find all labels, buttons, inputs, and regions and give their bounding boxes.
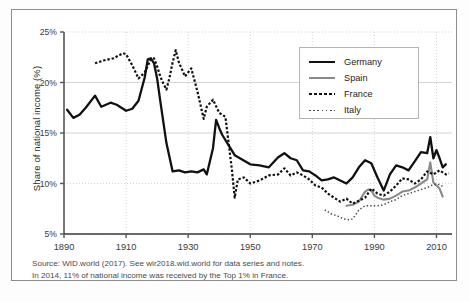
legend-label-italy: Italy	[344, 105, 361, 116]
figure-root: 5%10%15%20%25%18901910193019501970199020…	[0, 0, 469, 302]
chart-panel: 5%10%15%20%25%18901910193019501970199020…	[11, 9, 457, 281]
legend-item-germany[interactable]: Germany	[300, 54, 418, 70]
legend-item-france[interactable]: France	[300, 86, 418, 102]
legend-label-germany: Germany	[344, 57, 382, 68]
y-tick-label-10: 10%	[40, 179, 58, 189]
y-axis-label: Share of national income (%)	[31, 29, 42, 229]
source-line-1: Source: WID.world (2017). See wir2018.wi…	[32, 258, 432, 270]
legend-line-spain-icon	[309, 73, 335, 84]
x-tick-label-1950: 1950	[240, 242, 261, 252]
legend-label-spain: Spain	[344, 73, 368, 84]
legend-line-germany-icon	[309, 57, 335, 68]
source-line-2: In 2014, 11% of national income was rece…	[32, 270, 432, 282]
x-tick-label-1910: 1910	[116, 242, 137, 252]
x-tick-label-1890: 1890	[54, 242, 75, 252]
source-note: Source: WID.world (2017). See wir2018.wi…	[32, 258, 432, 281]
y-tick-label-5: 5%	[45, 229, 58, 239]
x-tick-label-1970: 1970	[302, 242, 323, 252]
y-tick-label-15: 15%	[40, 128, 58, 138]
y-tick-label-20: 20%	[40, 78, 58, 88]
legend-line-italy-icon	[309, 105, 335, 116]
x-tick-label-1990: 1990	[364, 242, 385, 252]
legend-item-spain[interactable]: Spain	[300, 70, 418, 86]
x-tick-label-2010: 2010	[426, 242, 447, 252]
legend-label-france: France	[344, 89, 373, 100]
legend-line-france-icon	[309, 89, 335, 100]
legend-item-italy[interactable]: Italy	[300, 102, 418, 118]
x-tick-label-1930: 1930	[178, 242, 199, 252]
y-tick-label-25: 25%	[40, 27, 58, 37]
chart-legend: Germany Spain France Italy	[299, 47, 419, 119]
